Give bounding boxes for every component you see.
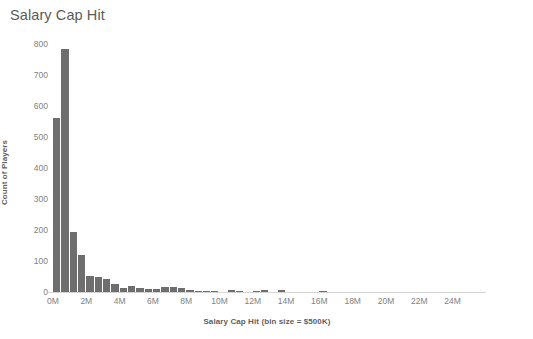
histogram-bar[interactable] — [61, 49, 69, 292]
histogram-bar[interactable] — [120, 288, 128, 292]
x-axis-tick-label: 24M — [444, 297, 461, 306]
histogram-bar[interactable] — [111, 284, 119, 292]
histogram-bar[interactable] — [278, 290, 286, 292]
x-axis-line — [48, 292, 486, 293]
x-axis-tick-label: 8M — [180, 297, 192, 306]
x-axis-tick-label: 0M — [47, 297, 59, 306]
histogram-bar[interactable] — [128, 286, 136, 292]
histogram-bar[interactable] — [186, 290, 194, 292]
y-axis-tick-labels: 0100200300400500600700800 — [0, 0, 48, 339]
histogram-bar[interactable] — [170, 287, 178, 292]
x-axis-tick-label: 20M — [378, 297, 395, 306]
histogram-bar[interactable] — [203, 291, 211, 292]
histogram-bar[interactable] — [228, 290, 236, 292]
histogram-bar[interactable] — [53, 118, 61, 292]
x-axis-tick-label: 18M — [344, 297, 361, 306]
plot-area — [53, 44, 481, 292]
histogram-bar[interactable] — [161, 287, 169, 292]
histogram-bar[interactable] — [95, 277, 103, 293]
y-axis-tick-label: 700 — [34, 71, 48, 80]
y-axis-tick-label: 500 — [34, 133, 48, 142]
histogram-bar[interactable] — [78, 255, 86, 292]
x-axis-tick-label: 22M — [411, 297, 428, 306]
histogram-bar[interactable] — [86, 276, 94, 292]
y-axis-tick-label: 100 — [34, 257, 48, 266]
x-axis-tick-label: 2M — [80, 297, 92, 306]
y-axis-tick-label: 400 — [34, 164, 48, 173]
histogram-bar[interactable] — [70, 232, 78, 292]
histogram-bar[interactable] — [103, 279, 111, 292]
y-axis-tick-label: 200 — [34, 226, 48, 235]
y-axis-tick-label: 300 — [34, 195, 48, 204]
x-axis-title: Salary Cap Hit (bin size = $500K) — [53, 317, 481, 326]
histogram-bar[interactable] — [236, 291, 244, 292]
y-axis-tick-label: 600 — [34, 102, 48, 111]
x-axis-tick-label: 6M — [147, 297, 159, 306]
x-axis-tick-labels: 0M2M4M6M8M10M12M14M16M18M20M22M24M — [0, 297, 533, 311]
y-axis-tick-label: 800 — [34, 40, 48, 49]
histogram-bar[interactable] — [211, 291, 219, 292]
x-axis-tick-label: 12M — [245, 297, 262, 306]
histogram-bar[interactable] — [195, 291, 203, 292]
x-axis-tick-label: 4M — [114, 297, 126, 306]
x-axis-tick-label: 16M — [311, 297, 328, 306]
histogram-bar[interactable] — [319, 291, 327, 292]
x-axis-tick-label: 10M — [211, 297, 228, 306]
x-axis-tick-label: 14M — [278, 297, 295, 306]
histogram-bar[interactable] — [145, 289, 153, 292]
histogram-chart: Salary Cap Hit Count of Players 01002003… — [0, 0, 533, 339]
histogram-bar[interactable] — [136, 288, 144, 292]
histogram-bar[interactable] — [178, 288, 186, 292]
histogram-bar[interactable] — [153, 289, 161, 292]
histogram-bar[interactable] — [261, 290, 269, 292]
histogram-bar[interactable] — [253, 291, 261, 292]
